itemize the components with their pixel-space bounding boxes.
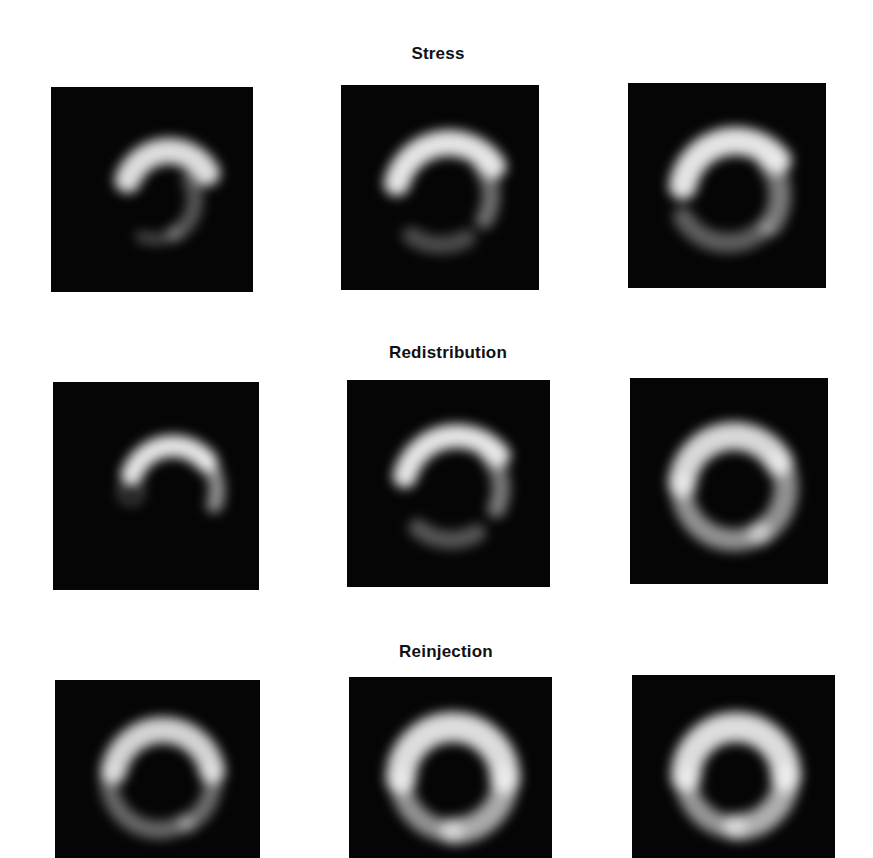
tracer-uptake-arc (768, 162, 780, 225)
perfusion-slice-image (628, 83, 826, 288)
tracer-uptake-arc (682, 483, 760, 540)
tracer-uptake-arc (401, 727, 505, 779)
tracer-uptake-arc (207, 462, 217, 505)
row-title-redistribution: Redistribution (389, 343, 507, 363)
tracer-uptake-arc (686, 777, 736, 827)
perfusion-slice-image (341, 85, 539, 290)
tracer-uptake-arc (489, 456, 501, 509)
tracer-uptake-arc (114, 730, 212, 771)
redistribution-slice-2 (347, 380, 550, 587)
tracer-uptake-arc (682, 436, 779, 483)
perfusion-slice-image (632, 675, 835, 858)
reinjection-slice-2 (349, 677, 552, 858)
redistribution-slice-1 (53, 382, 259, 590)
tracer-uptake-arc (453, 779, 505, 831)
tracer-uptake-arc (175, 179, 195, 234)
tracer-uptake-arc (132, 446, 207, 475)
perfusion-slice-image (347, 380, 550, 587)
row-title-reinjection: Reinjection (399, 642, 493, 662)
tracer-uptake-arc (401, 779, 453, 831)
perfusion-slice-image (55, 680, 260, 858)
tracer-uptake-arc (686, 727, 786, 777)
perfusion-slice-image (53, 382, 259, 590)
tracer-uptake-arc (418, 528, 477, 540)
perfusion-slice-image (630, 378, 828, 584)
perfusion-slice-image (349, 677, 552, 858)
reinjection-slice-3 (632, 675, 835, 858)
stress-slice-3 (628, 83, 826, 288)
row-title-stress: Stress (411, 44, 464, 64)
tracer-uptake-arc (141, 234, 175, 239)
stress-slice-1 (51, 87, 253, 292)
tracer-uptake-arc (482, 166, 491, 220)
tracer-uptake-arc (683, 217, 761, 243)
stress-slice-2 (341, 85, 539, 290)
reinjection-slice-1 (55, 680, 260, 858)
tracer-uptake-arc (188, 771, 213, 823)
tracer-uptake-arc (760, 462, 786, 533)
tracer-uptake-arc (411, 236, 467, 245)
perfusion-slice-image (51, 87, 253, 292)
tracer-uptake-arc (121, 482, 141, 502)
redistribution-slice-3 (630, 378, 828, 584)
